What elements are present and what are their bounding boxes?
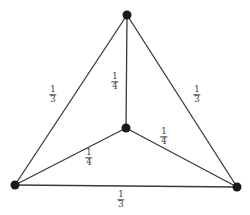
edge-center-left [15, 128, 126, 185]
graph-diagram [0, 0, 250, 215]
weight-denominator: 3 [194, 95, 199, 104]
edge-weight-center-right: 14 [160, 127, 167, 146]
weight-denominator: 4 [161, 137, 166, 146]
weight-denominator: 4 [112, 82, 117, 91]
edge-weight-center-left: 14 [85, 148, 92, 167]
edge-center-right [126, 128, 237, 187]
node-center [122, 124, 131, 133]
edge-weight-top-left: 13 [49, 85, 56, 104]
weight-denominator: 3 [50, 95, 55, 104]
edge-left-right [15, 185, 237, 187]
edge-top-right [127, 15, 237, 187]
edge-weight-left-right: 13 [117, 190, 124, 209]
edge-top-left [15, 15, 127, 185]
edge-weight-top-right: 13 [193, 85, 200, 104]
edge-weight-top-center: 14 [111, 72, 118, 91]
weight-denominator: 3 [118, 200, 123, 209]
weight-denominator: 4 [86, 158, 91, 167]
node-right [233, 183, 242, 192]
edge-top-center [126, 15, 127, 128]
node-top [123, 11, 132, 20]
node-left [11, 181, 20, 190]
